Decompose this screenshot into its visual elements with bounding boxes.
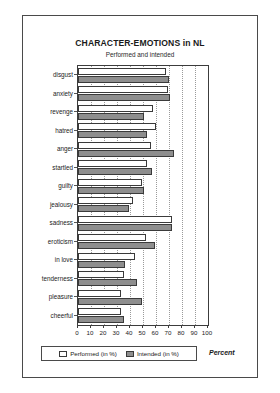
gridline-90 bbox=[195, 66, 197, 325]
x-tick-label-50: 50 bbox=[139, 329, 146, 336]
plot-area: disgustanxietyrevengehatredangerstartled… bbox=[23, 65, 259, 337]
bar-intended-disgust bbox=[78, 76, 169, 83]
category-label-anger: anger bbox=[57, 145, 73, 152]
category-label-tenderness: tenderness bbox=[42, 274, 73, 281]
category-label-hatred: hatred bbox=[55, 126, 73, 133]
white-bar-swatch bbox=[59, 351, 67, 357]
plot-axes bbox=[77, 65, 209, 326]
x-tick-label-70: 70 bbox=[165, 329, 172, 336]
bar-performed-tenderness bbox=[78, 271, 124, 278]
bar-performed-jealousy bbox=[78, 197, 133, 204]
bar-intended-tenderness bbox=[78, 279, 137, 286]
bar-intended-anger bbox=[78, 150, 174, 157]
x-tick-label-40: 40 bbox=[126, 329, 133, 336]
figure-border: CHARACTER-EMOTIONS in NL Performed and i… bbox=[22, 15, 258, 378]
bar-intended-pleasure bbox=[78, 298, 142, 305]
bar-intended-hatred bbox=[78, 131, 147, 138]
category-label-startled: startled bbox=[52, 163, 73, 170]
x-tick-0 bbox=[77, 325, 78, 328]
bar-intended-eroticism bbox=[78, 242, 155, 249]
bar-performed-guilty bbox=[78, 179, 142, 186]
bar-performed-anxiety bbox=[78, 86, 168, 93]
category-label-sadness: sadness bbox=[50, 219, 73, 226]
x-tick-70 bbox=[168, 325, 169, 328]
x-tick-50 bbox=[142, 325, 143, 328]
legend-label-performed: Performed (in %) bbox=[70, 350, 117, 357]
bar-intended-anxiety bbox=[78, 94, 170, 101]
chart-figure: CHARACTER-EMOTIONS in NL Performed and i… bbox=[0, 0, 280, 393]
x-tick-40 bbox=[129, 325, 130, 328]
category-label-eroticism: eroticism bbox=[48, 237, 73, 244]
category-label-revenge: revenge bbox=[50, 108, 73, 115]
legend-item-intended: Intended (in %) bbox=[126, 350, 179, 357]
gridline-70 bbox=[169, 66, 171, 325]
bar-performed-pleasure bbox=[78, 290, 121, 297]
x-tick-30 bbox=[116, 325, 117, 328]
x-tick-100 bbox=[207, 325, 208, 328]
category-label-jealousy: jealousy bbox=[50, 200, 73, 207]
bar-performed-cheerful bbox=[78, 308, 121, 315]
category-label-cheerful: cheerful bbox=[51, 311, 73, 318]
x-tick-label-90: 90 bbox=[191, 329, 198, 336]
legend-item-performed: Performed (in %) bbox=[59, 350, 117, 357]
bar-intended-startled bbox=[78, 168, 152, 175]
category-label-disgust: disgust bbox=[53, 71, 73, 78]
x-tick-label-60: 60 bbox=[152, 329, 159, 336]
gridline-80 bbox=[182, 66, 184, 325]
category-label-guilty: guilty bbox=[58, 182, 73, 189]
bar-intended-sadness bbox=[78, 224, 172, 231]
x-tick-60 bbox=[155, 325, 156, 328]
bar-performed-hatred bbox=[78, 123, 156, 130]
category-axis: disgustanxietyrevengehatredangerstartled… bbox=[23, 65, 77, 324]
chart-legend: Performed (in %) Intended (in %) bbox=[41, 346, 197, 361]
x-tick-20 bbox=[103, 325, 104, 328]
gridline-60 bbox=[156, 66, 158, 325]
category-label-pleasure: pleasure bbox=[49, 293, 73, 300]
bar-performed-startled bbox=[78, 160, 147, 167]
chart-title: CHARACTER-EMOTIONS in NL bbox=[23, 38, 257, 48]
category-label-in-love: in love bbox=[55, 256, 73, 263]
bar-performed-sadness bbox=[78, 216, 172, 223]
x-tick-90 bbox=[194, 325, 195, 328]
x-tick-label-10: 10 bbox=[87, 329, 94, 336]
x-tick-label-0: 0 bbox=[75, 329, 78, 336]
bar-performed-in-love bbox=[78, 253, 135, 260]
category-label-anxiety: anxiety bbox=[53, 89, 73, 96]
chart-subtitle: Performed and intended bbox=[23, 51, 257, 58]
bar-intended-cheerful bbox=[78, 316, 124, 323]
x-tick-label-30: 30 bbox=[113, 329, 120, 336]
bar-intended-revenge bbox=[78, 113, 144, 120]
bar-performed-disgust bbox=[78, 68, 166, 75]
bar-intended-in-love bbox=[78, 261, 125, 268]
gray-bar-swatch bbox=[126, 351, 134, 357]
value-axis: 0102030405060708090100 bbox=[77, 325, 208, 341]
title-block: CHARACTER-EMOTIONS in NL Performed and i… bbox=[23, 38, 257, 58]
bar-performed-revenge bbox=[78, 105, 153, 112]
bar-intended-guilty bbox=[78, 187, 144, 194]
bar-intended-jealousy bbox=[78, 205, 129, 212]
legend-label-intended: Intended (in %) bbox=[137, 350, 179, 357]
x-tick-10 bbox=[90, 325, 91, 328]
x-tick-label-20: 20 bbox=[100, 329, 107, 336]
x-tick-label-80: 80 bbox=[178, 329, 185, 336]
x-tick-80 bbox=[181, 325, 182, 328]
bar-performed-anger bbox=[78, 142, 151, 149]
bar-performed-eroticism bbox=[78, 234, 146, 241]
axis-unit-label: Percent bbox=[209, 349, 235, 356]
x-tick-label-100: 100 bbox=[202, 329, 212, 336]
